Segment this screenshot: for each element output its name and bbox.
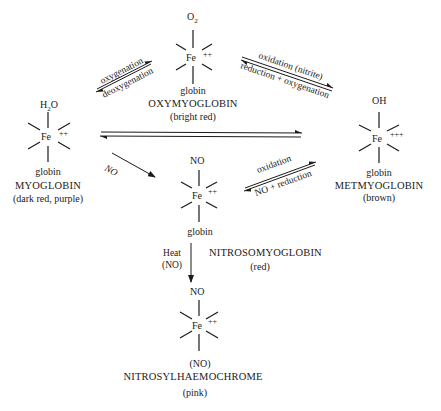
- bond-lower-right: [206, 202, 217, 208]
- no-arrow-label: NO: [102, 162, 119, 178]
- iron-center: Fe: [186, 52, 197, 63]
- metmyoglobin-color: (brown): [363, 192, 395, 204]
- arrow-nitrosomyoglobin-nitrosylhaemochrome: Heat (NO): [162, 243, 191, 282]
- myoglobin-ligand-top: H2O: [40, 99, 58, 113]
- bond-lower-right: [387, 144, 399, 151]
- charge-label: +++: [390, 130, 404, 139]
- myoglobin-color: (dark red, purple): [13, 193, 83, 205]
- charge-label: ++: [208, 317, 218, 326]
- arrow-myoglobin-nitrosomyoglobin: NO: [102, 153, 155, 178]
- oxymyoglobin-name: OXYMYOGLOBIN: [148, 98, 238, 109]
- forward-label: oxidation: [255, 153, 292, 175]
- arrow-myoglobin-oxymyoglobin: oxygenation deoxygenation: [96, 55, 155, 99]
- forward-arrow: [101, 132, 302, 133]
- myoglobin-structure: H2O Fe ++ globin MYOGLOBIN (dark red, pu…: [13, 99, 83, 205]
- nitrosomyoglobin-name: NITROSOMYOGLOBIN: [209, 247, 322, 258]
- nitrosylhaemochrome-structure: NO Fe ++ (NO) NITROSYLHAEMOCHROME (pink): [123, 286, 262, 399]
- metmyoglobin-name: METMYOGLOBIN: [335, 180, 424, 191]
- nitrosomyoglobin-ligand-top: NO: [190, 155, 204, 166]
- myoglobin-name: MYOGLOBIN: [15, 180, 81, 191]
- iron-center: Fe: [41, 131, 52, 142]
- no-arrow: [112, 153, 155, 177]
- reverse-arrow: [100, 136, 301, 137]
- globin-label: globin: [180, 85, 206, 96]
- bond-lower-left: [180, 331, 192, 338]
- charge-label: ++: [59, 129, 69, 138]
- nitrosylhaemochrome-ligand-top: NO: [190, 286, 204, 297]
- iron-center: Fe: [192, 320, 203, 331]
- oxymyoglobin-color: (bright red): [170, 111, 216, 123]
- arrow-metmyoglobin-nitrosomyoglobin: oxidation NO + reduction: [244, 153, 316, 198]
- iron-center: Fe: [372, 133, 383, 144]
- nitrosylhaemochrome-color: (pink): [183, 387, 207, 399]
- charge-label: ++: [208, 187, 218, 196]
- nitrosylhaemochrome-name: NITROSYLHAEMOCHROME: [123, 371, 262, 382]
- bond-upper-left: [28, 123, 40, 130]
- heat-label: Heat: [163, 248, 181, 258]
- bond-upper-left: [180, 312, 192, 319]
- globin-label: globin: [187, 226, 213, 237]
- bond-upper-left: [176, 44, 186, 50]
- nitrosylhaemochrome-ligand-bottom: (NO): [189, 358, 210, 370]
- charge-label: ++: [203, 50, 213, 59]
- myoglobin-pigment-diagram: O2 Fe ++ globin OXYMYOGLOBIN (bright red…: [0, 0, 441, 411]
- globin-label: globin: [35, 166, 61, 177]
- arrow-oxymyoglobin-metmyoglobin: oxidation (nitrite) reduction + oxygenat…: [239, 50, 333, 100]
- bond-lower-left: [176, 64, 186, 70]
- bond-upper-left: [181, 182, 192, 188]
- bond-lower-left: [359, 144, 371, 151]
- nitrosomyoglobin-color: (red): [250, 261, 269, 273]
- bond-lower-left: [181, 202, 192, 208]
- heat-label-sub: (NO): [162, 260, 182, 271]
- globin-label: globin: [366, 167, 392, 178]
- arrow-myoglobin-metmyoglobin: [100, 132, 302, 137]
- metmyoglobin-structure: OH Fe +++ globin METMYOGLOBIN (brown): [335, 95, 424, 204]
- bond-lower-right: [206, 331, 218, 338]
- bond-upper-left: [359, 125, 371, 131]
- iron-center: Fe: [192, 190, 203, 201]
- bond-lower-right: [58, 142, 70, 149]
- bond-lower-right: [202, 64, 212, 70]
- oxymyoglobin-ligand-top: O2: [187, 11, 198, 25]
- metmyoglobin-ligand-top: OH: [372, 95, 386, 106]
- bond-lower-left: [28, 142, 40, 149]
- oxymyoglobin-structure: O2 Fe ++ globin OXYMYOGLOBIN (bright red…: [148, 11, 238, 123]
